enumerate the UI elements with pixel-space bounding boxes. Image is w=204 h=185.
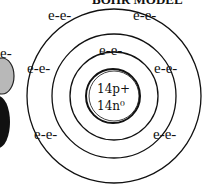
diagram-title: BOHR MODEL [92,0,183,7]
electrons-shell3-top-right: e-e- [133,7,156,23]
partial-electron-label: e- [0,45,12,61]
neutrons-label: 14n⁰ [97,99,125,113]
protons-label: 14p+ [97,82,130,96]
electrons-shell2-right: e-e- [154,60,177,76]
partial-atom-dark [0,96,10,148]
bohr-model-diagram: BOHR MODEL e- 14p+ 14n⁰ e-e- e-e- e-e- e… [0,0,204,185]
electrons-shell2-bottom-right: e-e- [153,126,176,142]
electrons-shell3-top-left: e-e- [48,7,71,23]
electrons-shell1-top: e-e- [99,42,122,58]
electrons-shell2-bottom-left: e-e- [34,126,57,142]
nucleus [86,69,140,123]
electrons-shell2-left: e-e- [27,60,50,76]
partial-atom-shell [0,58,14,94]
partial-atom-left: e- [0,45,14,148]
